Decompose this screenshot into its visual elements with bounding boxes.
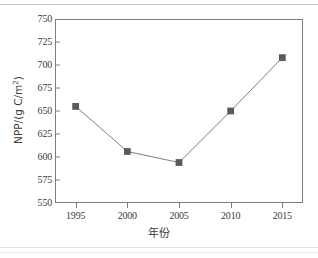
series-plot-area: [55, 19, 303, 203]
x-axis-tick-mark: [76, 203, 77, 208]
x-axis-tick-mark: [179, 203, 180, 208]
y-axis-title: NPP/(g C/m2): [12, 45, 24, 175]
x-axis-tick-label: 1995: [54, 210, 98, 222]
y-axis-title-suffix: ): [12, 76, 24, 80]
x-axis-tick-label: 2010: [209, 210, 253, 222]
y-axis-tick-label: 550: [18, 198, 52, 208]
y-axis-title-superscript: 2: [12, 80, 20, 84]
data-point-marker: [279, 54, 286, 61]
x-axis-tick-label-group: 19952000200520102015: [0, 208, 318, 222]
npp-series-markers: [72, 54, 285, 166]
npp-series-line: [76, 58, 283, 163]
y-axis-tick-label: 575: [18, 175, 52, 185]
x-axis-tick-label: 2015: [260, 210, 304, 222]
data-point-marker: [72, 103, 79, 110]
x-axis-title: 年份: [0, 224, 318, 240]
y-axis-tick-marks: [55, 42, 60, 180]
x-axis-tick-label: 2000: [105, 210, 149, 222]
figure-canvas: 550575600625650675700725750 199520002005…: [0, 0, 318, 258]
x-axis-tick-label: 2005: [157, 210, 201, 222]
x-axis-tick-mark: [282, 203, 283, 208]
data-point-marker: [176, 159, 183, 166]
x-axis-tick-mark: [127, 203, 128, 208]
y-axis-tick-label: 750: [18, 14, 52, 24]
y-axis-title-main: NPP/(g C/m: [12, 85, 24, 144]
data-point-marker: [124, 148, 131, 155]
data-point-marker: [227, 108, 234, 115]
x-axis-tick-mark: [231, 203, 232, 208]
